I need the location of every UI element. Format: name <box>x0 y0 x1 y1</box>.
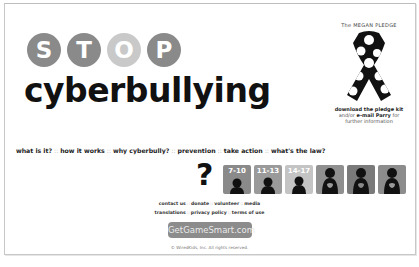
media-link[interactable]: media <box>244 201 260 206</box>
logo-letter-p: P <box>147 33 181 67</box>
nav-how-it-works[interactable]: how it works <box>60 147 105 154</box>
nav-whats-the-law[interactable]: what's the law? <box>271 147 325 154</box>
letter: P <box>156 37 173 63</box>
letter: O <box>114 37 134 63</box>
logo-letter-s: S <box>27 33 61 67</box>
main-nav: what is it?::how it works::why cyberbull… <box>16 147 325 154</box>
pledge-more-info: and/or e-mail Parry for further informat… <box>330 112 408 124</box>
footer-separator: :: <box>187 201 190 206</box>
audience-selector: 7-10 11-13 14-17 <box>223 165 406 194</box>
footer-separator: :: <box>228 210 231 215</box>
volunteer-link[interactable]: volunteer <box>214 201 239 206</box>
audience-tile-11-13[interactable]: 11-13 <box>254 165 282 194</box>
pledge-title: The MEGAN PLEDGE <box>330 22 408 28</box>
nav-take-action[interactable]: take action <box>224 147 263 154</box>
ribbon-icon[interactable] <box>341 31 397 103</box>
nav-separator: :: <box>54 147 58 154</box>
audience-tile-educators[interactable] <box>347 165 375 194</box>
kid-silhouette-icon <box>223 165 251 194</box>
nav-prevention[interactable]: prevention <box>178 147 216 154</box>
contact-us-link[interactable]: contact us <box>159 201 186 206</box>
megan-pledge-panel: The MEGAN PLEDGE download the pledge kit… <box>330 22 408 124</box>
nav-separator: :: <box>171 147 175 154</box>
audience-tile-parents[interactable] <box>316 165 344 194</box>
audience-tile-14-17[interactable]: 14-17 <box>285 165 313 194</box>
footer-separator: :: <box>240 201 243 206</box>
letter: T <box>76 37 92 63</box>
donate-link[interactable]: donate <box>191 201 209 206</box>
nav-why-cyberbully[interactable]: why cyberbully? <box>113 147 169 154</box>
nav-separator: :: <box>265 147 269 154</box>
footer-links-row-2: translations::privacy policy::terms of u… <box>0 210 419 215</box>
terms-of-use-link[interactable]: terms of use <box>232 210 265 215</box>
logo-letter-o: O <box>107 33 141 67</box>
educator-silhouette-icon <box>347 165 375 194</box>
officer-silhouette-icon <box>378 165 406 194</box>
audience-tile-law-enforcement[interactable] <box>378 165 406 194</box>
help-question-icon[interactable]: ? <box>196 160 213 190</box>
privacy-policy-link[interactable]: privacy policy <box>191 210 227 215</box>
footer-links-row-1: contact us::donate::volunteer::media <box>0 201 419 206</box>
site-wordmark[interactable]: cyberbullying <box>24 71 271 110</box>
audience-tile-7-10[interactable]: 7-10 <box>223 165 251 194</box>
letter: S <box>36 37 53 63</box>
footer-separator: :: <box>210 201 213 206</box>
teen-silhouette-icon <box>285 165 313 194</box>
copyright-text: © WiredKids, Inc. All rights reserved. <box>0 245 419 250</box>
stop-logo[interactable]: S T O P <box>27 33 181 67</box>
parent-silhouette-icon <box>316 165 344 194</box>
footer-separator: :: <box>187 210 190 215</box>
logo-letter-t: T <box>67 33 101 67</box>
translations-link[interactable]: translations <box>155 210 186 215</box>
nav-what-is-it[interactable]: what is it? <box>16 147 52 154</box>
getgamesmart-badge[interactable]: GetGameSmart.com <box>168 222 252 238</box>
nav-separator: :: <box>218 147 222 154</box>
nav-separator: :: <box>107 147 111 154</box>
tween-silhouette-icon <box>254 165 282 194</box>
